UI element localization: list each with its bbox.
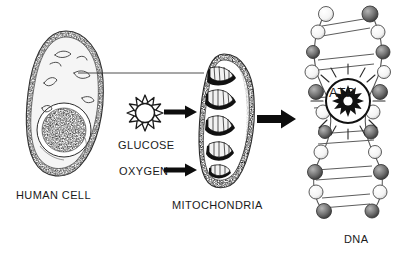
- human-cell-label: HUMAN CELL: [16, 190, 91, 201]
- atp-label: ATP: [329, 86, 356, 99]
- cell-to-mitochondria-leader-line: [78, 62, 204, 86]
- diagram-canvas: HUMAN CELL: [0, 0, 406, 265]
- dna-double-helix-illustration: [296, 2, 400, 234]
- mitochondria-illustration: [196, 52, 258, 198]
- oxygen-input-arrow: [164, 162, 198, 182]
- glucose-label: GLUCOSE: [118, 140, 175, 151]
- mitochondria-label: MITOCHONDRIA: [172, 200, 263, 211]
- glucose-sunburst-icon: [126, 94, 164, 136]
- human-cell-illustration: [22, 28, 108, 187]
- oxygen-label: OXYGEN: [119, 166, 168, 177]
- mitochondria-to-atp-arrow: [257, 108, 297, 134]
- glucose-input-arrow: [164, 104, 198, 124]
- dna-label: DNA: [344, 234, 368, 245]
